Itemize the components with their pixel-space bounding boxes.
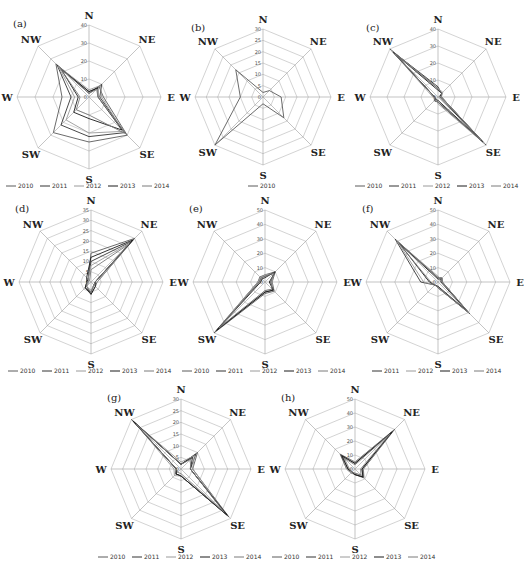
panel-label: (a): [13, 18, 27, 29]
radar-panel-f: 01020304050NNEESESSWWNW(f)20112012201320…: [349, 195, 524, 375]
legend-item-2013: 2013: [440, 367, 467, 374]
series-2014: [87, 244, 129, 292]
tick-label: 40: [430, 221, 436, 227]
direction-label-se: SE: [230, 520, 245, 531]
radar-panel-g: 051015202530NNEESESSWWNW(g)2010201120122…: [94, 384, 265, 561]
tick-label: 25: [83, 228, 89, 234]
legend-label: 2012: [88, 367, 103, 374]
legend-label: 2014: [486, 367, 501, 374]
legend-label: 2014: [156, 367, 171, 374]
tick-label: 10: [257, 265, 263, 271]
direction-label-n: N: [350, 384, 359, 395]
legend-label: 2010: [367, 182, 382, 189]
legend-label: 2012: [418, 367, 433, 374]
legend-item-2013: 2013: [110, 367, 137, 374]
direction-label-w: W: [2, 277, 15, 288]
legend-item-2011: 2011: [216, 367, 243, 374]
radar-panel-a: 010203040NNEESESSWWNW(a)2010201120122013…: [0, 10, 175, 190]
direction-label-se: SE: [404, 520, 419, 531]
direction-label-w: W: [349, 277, 362, 288]
direction-label-w: W: [353, 92, 366, 103]
direction-label-nw: NW: [370, 219, 391, 230]
legend-label: 2014: [154, 182, 169, 189]
legend-item-2013: 2013: [284, 367, 311, 374]
legend-item-2014: 2014: [144, 367, 171, 374]
direction-label-ne: NE: [403, 407, 420, 418]
legend-item-2011: 2011: [306, 553, 333, 560]
tick-label: 20: [83, 238, 89, 244]
tick-label: 30: [81, 40, 87, 46]
tick-label: 30: [255, 26, 261, 32]
axis-spoke: [181, 420, 230, 469]
direction-label-n: N: [433, 14, 442, 25]
direction-label-se: SE: [311, 147, 326, 158]
direction-label-ne: NE: [315, 219, 332, 230]
direction-label-w: W: [176, 277, 189, 288]
legend-item-2012: 2012: [74, 182, 101, 189]
radar-panel-h: 01020304050NNEESESSWWNW(h)20102011201220…: [268, 384, 439, 561]
tick-label: 15: [83, 248, 89, 254]
tick-label: 50: [347, 396, 353, 402]
direction-label-se: SE: [316, 334, 331, 345]
panel-label: (d): [15, 203, 29, 214]
legend-label: 2011: [52, 182, 67, 189]
legend-item-2014: 2014: [408, 553, 435, 560]
direction-label-ne: NE: [139, 34, 156, 45]
direction-label-s: S: [434, 359, 441, 370]
direction-label-sw: SW: [199, 147, 218, 158]
panel-label: (e): [189, 203, 203, 214]
legend-item-2012: 2012: [340, 553, 367, 560]
direction-label-n: N: [258, 14, 267, 25]
direction-label-se: SE: [142, 334, 157, 345]
legend-item-2011: 2011: [389, 182, 416, 189]
tick-label: 0: [84, 94, 87, 100]
legend-item-2013: 2013: [200, 553, 227, 560]
direction-label-sw: SW: [289, 520, 308, 531]
direction-label-nw: NW: [23, 219, 44, 230]
axis-spoke: [263, 49, 311, 97]
axis-spoke: [132, 469, 181, 518]
legend-label: 2013: [469, 182, 484, 189]
direction-label-ne: NE: [488, 219, 505, 230]
legend-label: 2012: [352, 553, 367, 560]
direction-label-s: S: [434, 170, 441, 181]
direction-label-nw: NW: [198, 36, 219, 47]
direction-label-e: E: [431, 464, 439, 475]
legend-label: 2011: [144, 553, 159, 560]
tick-label: 25: [255, 37, 261, 43]
radar-panel-d: 05101520253035NNEESESSWWNW(d)20102011201…: [2, 195, 177, 375]
direction-label-nw: NW: [21, 34, 42, 45]
legend-label: 2010: [260, 182, 275, 189]
legend-item-2010: 2010: [248, 182, 275, 189]
legend-label: 2011: [228, 367, 243, 374]
direction-label-sw: SW: [24, 334, 43, 345]
tick-label: 15: [255, 60, 261, 66]
legend-item-2013: 2013: [457, 182, 484, 189]
legend-item-2014: 2014: [318, 367, 345, 374]
panel-label: (g): [107, 392, 121, 403]
direction-label-nw: NW: [288, 407, 309, 418]
direction-label-sw: SW: [198, 334, 217, 345]
legend-item-2014: 2014: [474, 367, 501, 374]
direction-label-n: N: [84, 10, 93, 21]
legend-label: 2012: [262, 367, 277, 374]
legend-label: 2012: [86, 182, 101, 189]
direction-label-ne: NE: [229, 407, 246, 418]
direction-label-se: SE: [489, 334, 504, 345]
panel-label: (f): [362, 203, 374, 214]
axis-spoke: [263, 97, 311, 145]
tick-label: 40: [81, 22, 87, 28]
tick-label: 15: [173, 431, 179, 437]
tick-label: 50: [430, 207, 436, 213]
axis-spoke: [215, 97, 263, 145]
legend-item-2011: 2011: [372, 367, 399, 374]
tick-label: 20: [81, 58, 87, 64]
tick-label: 40: [347, 410, 353, 416]
direction-label-nw: NW: [197, 219, 218, 230]
direction-label-nw: NW: [373, 36, 394, 47]
radar-panel-e: 01020304050NNEESESSWWNW(e)20102011201220…: [176, 195, 351, 375]
legend-label: 2014: [330, 367, 345, 374]
direction-label-se: SE: [140, 149, 155, 160]
tick-label: 10: [173, 443, 179, 449]
legend-label: 2012: [435, 182, 450, 189]
